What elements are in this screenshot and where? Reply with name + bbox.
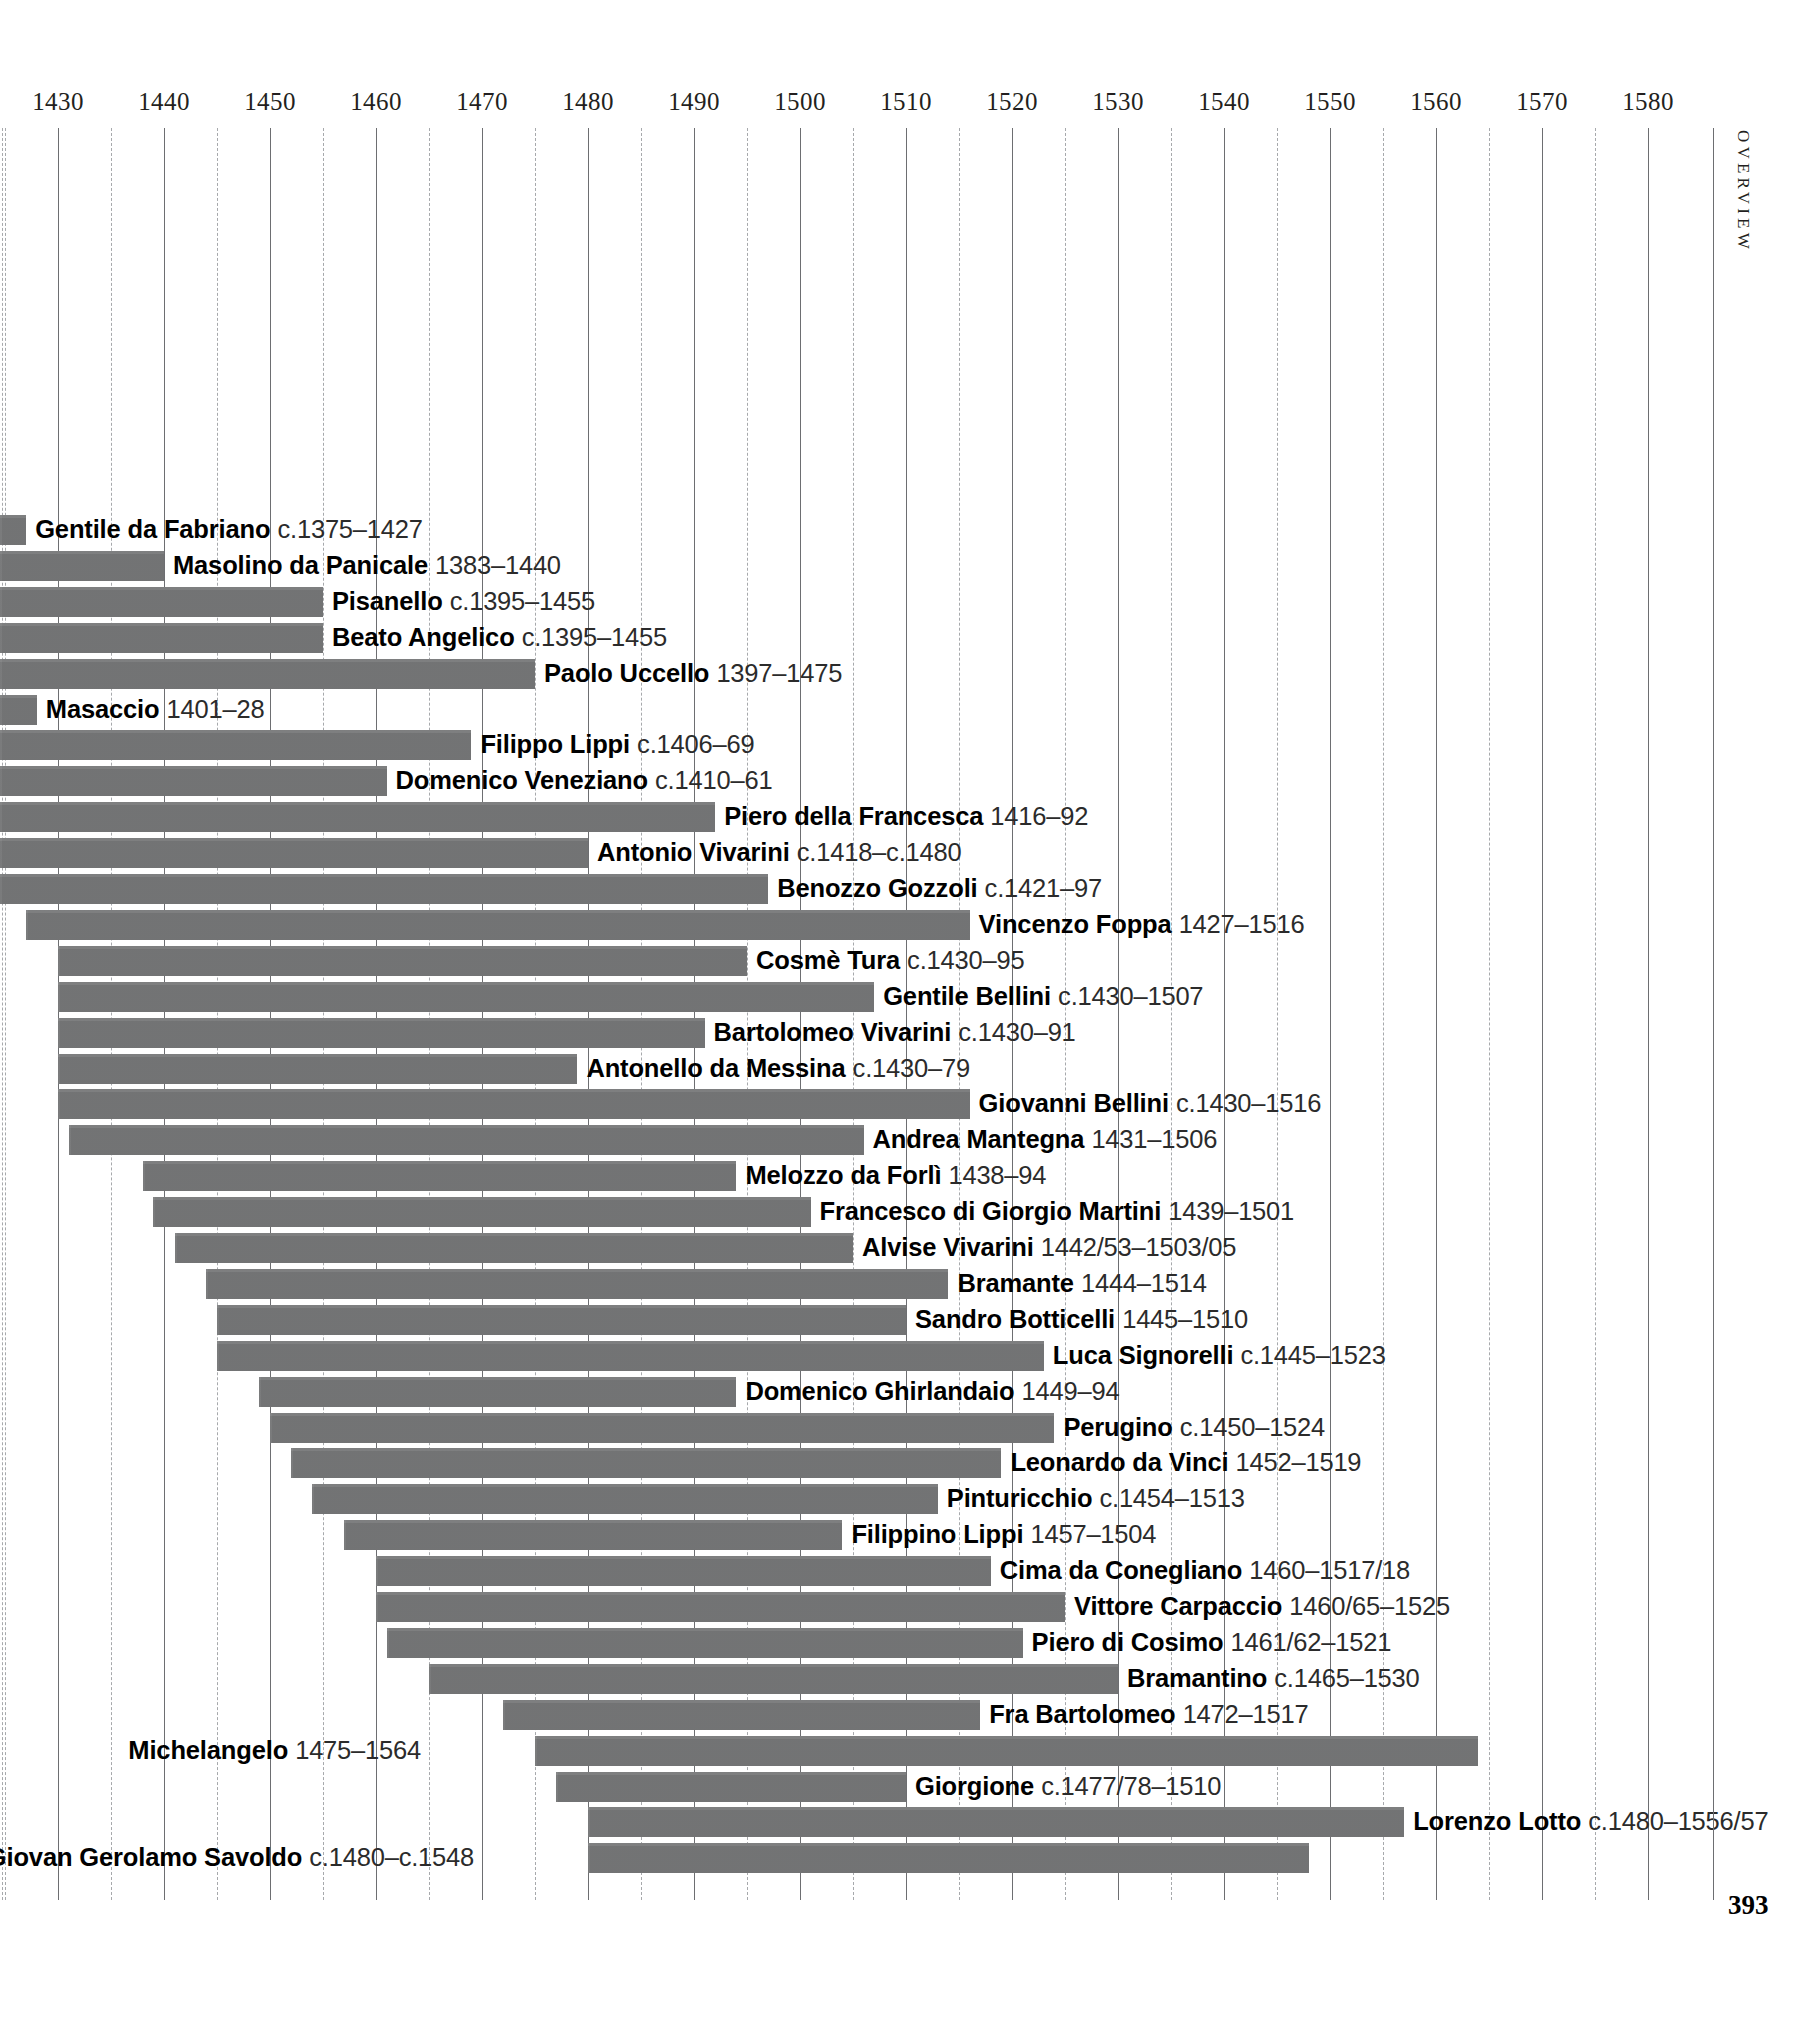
artist-lifespan-bar [588, 1807, 1404, 1837]
artist-dates: 1457–1504 [1030, 1520, 1156, 1548]
artist-name: Francesco di Giorgio Martini [820, 1197, 1162, 1225]
artist-dates: 1460–1517/18 [1249, 1556, 1410, 1584]
artist-lifespan-bar [153, 1197, 810, 1227]
artist-name: Leonardo da Vinci [1010, 1449, 1228, 1477]
artist-dates: c.1410–61 [655, 767, 772, 795]
artist-dates: c.1430–91 [958, 1018, 1075, 1046]
artist-lifespan-bar [58, 1018, 705, 1048]
artist-label: Domenico Ghirlandaio 1449–94 [736, 1379, 1119, 1405]
artist-dates: 1383–1440 [435, 551, 561, 579]
artist-label: Pisanello c.1395–1455 [323, 589, 595, 615]
timeline-row: Sandro Botticelli 1445–1510 [0, 1305, 1713, 1335]
year-axis: 1430144014501460147014801490150015101520… [0, 0, 1818, 128]
artist-lifespan-bar [270, 1413, 1054, 1443]
artist-name: Vittore Carpaccio [1074, 1592, 1282, 1620]
artist-name: Filippo Lippi [480, 731, 630, 759]
artist-name: Gentile da Fabriano [35, 515, 270, 543]
artist-lifespan-bar [291, 1448, 1001, 1478]
axis-tick-label-1430: 1430 [32, 88, 84, 116]
artist-name: Giovan Gerolamo Savoldo [0, 1844, 302, 1872]
artist-name: Masolino da Panicale [173, 551, 428, 579]
timeline-page: 1430144014501460147014801490150015101520… [0, 0, 1818, 2028]
section-tab-label: OVERVIEW [1733, 130, 1753, 253]
artist-label: Giorgione c.1477/78–1510 [906, 1774, 1221, 1800]
artist-name: Antonio Vivarini [597, 838, 790, 866]
axis-tick-label-1480: 1480 [562, 88, 614, 116]
artist-name: Antonello da Messina [586, 1054, 845, 1082]
artist-dates: c.1406–69 [637, 731, 754, 759]
artist-dates: c.1375–1427 [277, 515, 422, 543]
artist-label: Gentile da Fabriano c.1375–1427 [26, 517, 423, 543]
artist-dates: 1401–28 [167, 695, 265, 723]
artist-dates: 1438–94 [948, 1161, 1046, 1189]
artist-dates: c.1430–95 [907, 946, 1024, 974]
artist-label: Giovan Gerolamo Savoldo c.1480–c.1548 [0, 1846, 483, 1872]
artist-dates: 1431–1506 [1091, 1126, 1217, 1154]
axis-tick-label-1460: 1460 [350, 88, 402, 116]
artist-name: Bartolomeo Vivarini [714, 1018, 952, 1046]
artist-name: Sandro Botticelli [915, 1305, 1115, 1333]
artist-lifespan-bar [556, 1772, 906, 1802]
artist-lifespan-bar [0, 551, 164, 581]
artist-label: Pinturicchio c.1454–1513 [938, 1487, 1245, 1513]
axis-tick-label-1490: 1490 [668, 88, 720, 116]
artist-name: Masaccio [46, 695, 160, 723]
artist-lifespan-bar [535, 1736, 1478, 1766]
timeline-row: Beato Angelico c.1395–1455 [0, 623, 1713, 653]
timeline-row: Francesco di Giorgio Martini 1439–1501 [0, 1197, 1713, 1227]
artist-dates: c.1430–1507 [1058, 982, 1203, 1010]
axis-tick-label-1500: 1500 [774, 88, 826, 116]
artist-label: Filippino Lippi 1457–1504 [842, 1522, 1156, 1548]
timeline-row: Cosmè Tura c.1430–95 [0, 946, 1713, 976]
artist-lifespan-bar [58, 1054, 577, 1084]
section-tab-overview: OVERVIEW [1723, 130, 1763, 360]
artist-lifespan-bar [217, 1341, 1044, 1371]
artist-name: Piero della Francesca [724, 802, 983, 830]
timeline-row: Fra Bartolomeo 1472–1517 [0, 1700, 1713, 1730]
artist-name: Perugino [1063, 1413, 1172, 1441]
artist-label: Cosmè Tura c.1430–95 [747, 948, 1024, 974]
artist-dates: 1449–94 [1022, 1377, 1120, 1405]
axis-tick-label-1540: 1540 [1198, 88, 1250, 116]
artist-dates: 1472–1517 [1183, 1700, 1309, 1728]
artist-lifespan-bar [0, 838, 588, 868]
timeline-row: Michelangelo 1475–1564 [0, 1736, 1713, 1766]
artist-lifespan-bar [259, 1377, 736, 1407]
timeline-row: Melozzo da Forlì 1438–94 [0, 1161, 1713, 1191]
artist-lifespan-bar [0, 802, 715, 832]
artist-dates: c.1430–79 [853, 1054, 970, 1082]
timeline-row: Perugino c.1450–1524 [0, 1413, 1713, 1443]
artist-label: Vincenzo Foppa 1427–1516 [970, 912, 1305, 938]
artist-lifespan-bar [0, 659, 535, 689]
artist-label: Paolo Uccello 1397–1475 [535, 661, 842, 687]
artist-name: Paolo Uccello [544, 659, 709, 687]
artist-label: Giovanni Bellini c.1430–1516 [970, 1092, 1322, 1118]
artist-lifespan-bar [206, 1269, 948, 1299]
artist-dates: c.1421–97 [985, 874, 1102, 902]
timeline-row: Bramantino c.1465–1530 [0, 1664, 1713, 1694]
timeline-row: Benozzo Gozzoli c.1421–97 [0, 874, 1713, 904]
artist-lifespan-bar [69, 1125, 864, 1155]
artist-name: Lorenzo Lotto [1413, 1808, 1581, 1836]
timeline-row: Bartolomeo Vivarini c.1430–91 [0, 1018, 1713, 1048]
artist-dates: 1427–1516 [1179, 910, 1305, 938]
artist-label: Bramantino c.1465–1530 [1118, 1666, 1420, 1692]
timeline-row: Paolo Uccello 1397–1475 [0, 659, 1713, 689]
artist-label: Filippo Lippi c.1406–69 [471, 733, 754, 759]
artist-name: Michelangelo [128, 1736, 288, 1764]
artist-name: Giorgione [915, 1772, 1034, 1800]
artist-label: Michelangelo 1475–1564 [128, 1738, 430, 1764]
artist-dates: c.1480–1556/57 [1588, 1808, 1768, 1836]
artist-name: Beato Angelico [332, 623, 515, 651]
artist-name: Andrea Mantegna [873, 1126, 1085, 1154]
artist-lifespan-bar [0, 587, 323, 617]
artist-dates: c.1450–1524 [1180, 1413, 1325, 1441]
timeline-row: Vittore Carpaccio 1460/65–1525 [0, 1592, 1713, 1622]
artist-name: Pinturicchio [947, 1485, 1093, 1513]
artist-label: Perugino c.1450–1524 [1054, 1415, 1325, 1441]
timeline-row: Leonardo da Vinci 1452–1519 [0, 1448, 1713, 1478]
artist-lifespan-bar [0, 874, 768, 904]
artist-lifespan-bar [0, 766, 387, 796]
artist-label: Fra Bartolomeo 1472–1517 [980, 1702, 1308, 1728]
timeline-row: Domenico Ghirlandaio 1449–94 [0, 1377, 1713, 1407]
